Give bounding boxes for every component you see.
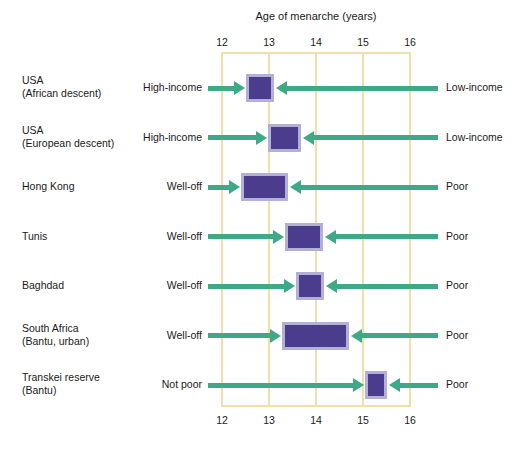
row-left-arrow-head — [234, 81, 245, 95]
row-left-arrow-head — [273, 230, 284, 244]
chart-row: TunisWell-offPoor — [0, 212, 513, 262]
row-range-box — [241, 173, 288, 201]
row-category-line2: (Bantu) — [22, 384, 142, 397]
row-range-box-fill — [299, 275, 321, 297]
row-range-box-fill — [244, 176, 285, 198]
row-left-arrow-head — [284, 279, 295, 293]
row-category-label: Baghdad — [22, 279, 142, 292]
chart-row: USA(African descent)High-incomeLow-incom… — [0, 63, 513, 113]
row-range-box — [268, 124, 301, 152]
x-tick-15: 15 — [357, 36, 369, 48]
row-right-condition-label: Low-income — [446, 131, 503, 143]
row-left-arrow-shaft — [208, 234, 274, 239]
row-left-arrow-head — [353, 378, 364, 392]
row-range-box — [282, 322, 349, 350]
x-tick-14: 14 — [310, 36, 322, 48]
row-left-arrow-head — [229, 180, 240, 194]
x-tick-13: 13 — [263, 414, 275, 426]
row-left-arrow-shaft — [208, 383, 354, 388]
chart-row: BaghdadWell-offPoor — [0, 261, 513, 311]
row-left-condition-label: Well-off — [167, 329, 202, 341]
row-range-box — [296, 272, 324, 300]
row-right-condition-label: Poor — [446, 378, 468, 390]
row-left-arrow-shaft — [208, 86, 235, 91]
row-category-line1: Hong Kong — [22, 180, 75, 192]
chart-row: Transkei reserve(Bantu)Not poorPoor — [0, 360, 513, 410]
row-left-condition-label: Well-off — [167, 230, 202, 242]
row-left-condition-label: Well-off — [167, 180, 202, 192]
row-category-line1: USA — [22, 124, 44, 136]
row-category-line1: Transkei reserve — [22, 371, 100, 383]
row-category-label: South Africa(Bantu, urban) — [22, 322, 142, 348]
row-category-line1: Tunis — [22, 230, 47, 242]
row-category-label: Tunis — [22, 230, 142, 243]
row-right-arrow-shaft — [361, 333, 438, 338]
chart-row: South Africa(Bantu, urban)Well-offPoor — [0, 311, 513, 361]
row-range-box-fill — [249, 77, 271, 99]
x-tick-16: 16 — [404, 414, 416, 426]
row-right-arrow-shaft — [300, 185, 438, 190]
chart-row: USA(European descent)High-incomeLow-inco… — [0, 113, 513, 163]
row-category-line2: (European descent) — [22, 137, 142, 150]
row-right-arrow-shaft — [336, 284, 438, 289]
row-category-line1: USA — [22, 74, 44, 86]
row-right-condition-label: Poor — [446, 279, 468, 291]
row-left-condition-label: Well-off — [167, 279, 202, 291]
row-left-condition-label: Not poor — [162, 378, 202, 390]
row-category-label: Hong Kong — [22, 180, 142, 193]
row-range-box-fill — [271, 127, 298, 149]
row-range-box — [285, 223, 324, 251]
row-category-line2: (African descent) — [22, 87, 142, 100]
row-range-box-fill — [288, 226, 321, 248]
row-left-arrow-head — [256, 131, 267, 145]
row-right-condition-label: Low-income — [446, 81, 503, 93]
x-tick-12: 12 — [216, 36, 228, 48]
x-tick-12: 12 — [216, 414, 228, 426]
row-category-line1: South Africa — [22, 322, 79, 334]
row-range-box — [365, 371, 387, 399]
chart-row: Hong KongWell-offPoor — [0, 162, 513, 212]
x-tick-16: 16 — [404, 36, 416, 48]
row-category-label: USA(European descent) — [22, 124, 142, 150]
row-left-condition-label: High-income — [143, 81, 202, 93]
row-left-arrow-head — [270, 329, 281, 343]
row-left-arrow-shaft — [208, 284, 285, 289]
row-left-condition-label: High-income — [143, 131, 202, 143]
row-right-condition-label: Poor — [446, 230, 468, 242]
row-category-line2: (Bantu, urban) — [22, 335, 142, 348]
row-range-box-fill — [285, 325, 346, 347]
row-category-line1: Baghdad — [22, 279, 64, 291]
row-category-label: Transkei reserve(Bantu) — [22, 371, 142, 397]
row-right-condition-label: Poor — [446, 329, 468, 341]
row-right-condition-label: Poor — [446, 180, 468, 192]
row-range-box-fill — [368, 374, 384, 396]
chart-title: Age of menarche (years) — [222, 10, 410, 22]
x-tick-14: 14 — [310, 414, 322, 426]
row-category-label: USA(African descent) — [22, 74, 142, 100]
row-range-box — [246, 74, 274, 102]
menarche-range-chart: Age of menarche (years) 1213141516 12131… — [0, 0, 513, 454]
row-right-arrow-shaft — [286, 86, 438, 91]
row-left-arrow-shaft — [208, 333, 271, 338]
row-right-arrow-shaft — [313, 135, 438, 140]
row-right-arrow-shaft — [335, 234, 438, 239]
x-tick-13: 13 — [263, 36, 275, 48]
row-right-arrow-shaft — [399, 383, 438, 388]
x-tick-15: 15 — [357, 414, 369, 426]
row-left-arrow-shaft — [208, 185, 230, 190]
row-left-arrow-shaft — [208, 135, 257, 140]
